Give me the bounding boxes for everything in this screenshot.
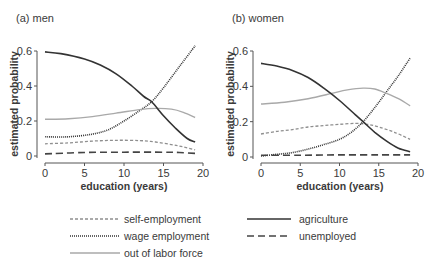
panel-women: (b) women estimated probability educatio… <box>224 12 424 192</box>
x-tick-label: 20 <box>412 167 424 179</box>
axes-women: 00.20.40.605101520 <box>233 45 424 179</box>
legend: self-employment wage employment out of l… <box>70 213 356 259</box>
x-tick-label: 0 <box>258 167 264 179</box>
x-tick-label: 5 <box>297 167 303 179</box>
y-tick-label: 0 <box>242 151 248 163</box>
legend-label-wage-employment: wage employment <box>123 230 209 242</box>
series-men <box>45 46 195 154</box>
series-line-self-employment <box>261 123 410 139</box>
x-axis-label-men: education (years) <box>81 180 168 192</box>
x-tick-label: 10 <box>333 167 345 179</box>
series-line-agriculture <box>261 63 410 151</box>
y-tick-label: 0.2 <box>17 115 32 127</box>
y-tick-label: 0.4 <box>17 80 32 92</box>
y-tick-label: 0 <box>26 150 32 162</box>
panel-men: (a) men estimated probability education … <box>8 12 209 192</box>
legend-item-self-employment: self-employment <box>70 213 201 225</box>
y-axis-label-men: estimated probability <box>8 51 20 157</box>
legend-label-agriculture: agriculture <box>299 213 348 225</box>
x-tick-label: 20 <box>197 167 209 179</box>
legend-label-self-employment: self-employment <box>124 213 201 225</box>
x-tick-label: 15 <box>157 167 169 179</box>
y-tick-label: 0.4 <box>233 80 248 92</box>
y-axis-label-women: estimated probability <box>224 51 236 157</box>
y-tick-label: 0.6 <box>233 45 248 57</box>
legend-label-out-of-labor-force: out of labor force <box>124 247 203 259</box>
x-tick-label: 5 <box>81 167 87 179</box>
series-women <box>261 58 410 156</box>
series-line-agriculture <box>45 52 195 142</box>
legend-item-wage-employment: wage employment <box>70 230 209 242</box>
y-tick-label: 0.2 <box>233 116 248 128</box>
legend-label-unemployed: unemployed <box>299 230 356 242</box>
series-line-out-of-labor-force <box>45 108 195 119</box>
series-line-wage-employment <box>45 46 195 137</box>
x-tick-label: 10 <box>118 167 130 179</box>
x-tick-label: 0 <box>42 167 48 179</box>
x-tick-label: 15 <box>373 167 385 179</box>
figure: (a) men estimated probability education … <box>0 0 433 269</box>
series-line-unemployed <box>45 152 195 154</box>
legend-item-agriculture: agriculture <box>247 213 348 225</box>
legend-item-out-of-labor-force: out of labor force <box>70 247 203 259</box>
legend-item-unemployed: unemployed <box>247 230 356 242</box>
y-tick-label: 0.6 <box>17 45 32 57</box>
x-axis-label-women: education (years) <box>297 180 384 192</box>
panel-title-women: (b) women <box>232 12 284 24</box>
panel-title-men: (a) men <box>16 12 54 24</box>
series-line-self-employment <box>45 140 195 150</box>
